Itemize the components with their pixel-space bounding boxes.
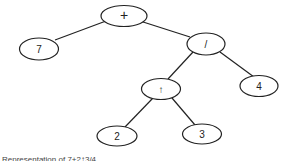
node-seven: 7 bbox=[20, 38, 59, 60]
node-div: / bbox=[187, 33, 225, 55]
node-three: 3 bbox=[183, 124, 222, 144]
edge-div-four bbox=[220, 52, 254, 77]
node-two: 2 bbox=[97, 126, 137, 146]
edge-pow-two bbox=[125, 98, 153, 127]
node-plus: + bbox=[101, 6, 147, 27]
node-label: + bbox=[120, 7, 128, 23]
node-label: 4 bbox=[256, 81, 262, 92]
edge-plus-div bbox=[140, 21, 190, 37]
expression-tree: +7/↑423 bbox=[0, 0, 281, 161]
edge-pow-three bbox=[172, 98, 195, 125]
node-pow: ↑ bbox=[142, 79, 181, 100]
edge-div-pow bbox=[168, 52, 193, 79]
node-label: 3 bbox=[199, 129, 205, 140]
node-label: 2 bbox=[114, 131, 120, 142]
node-label: ↑ bbox=[159, 84, 164, 95]
figure-caption: Representation of 7+2↑3/4 bbox=[2, 155, 96, 161]
node-four: 4 bbox=[240, 76, 278, 97]
node-label: / bbox=[205, 39, 208, 50]
edge-plus-seven bbox=[55, 21, 106, 40]
node-label: 7 bbox=[36, 44, 42, 55]
